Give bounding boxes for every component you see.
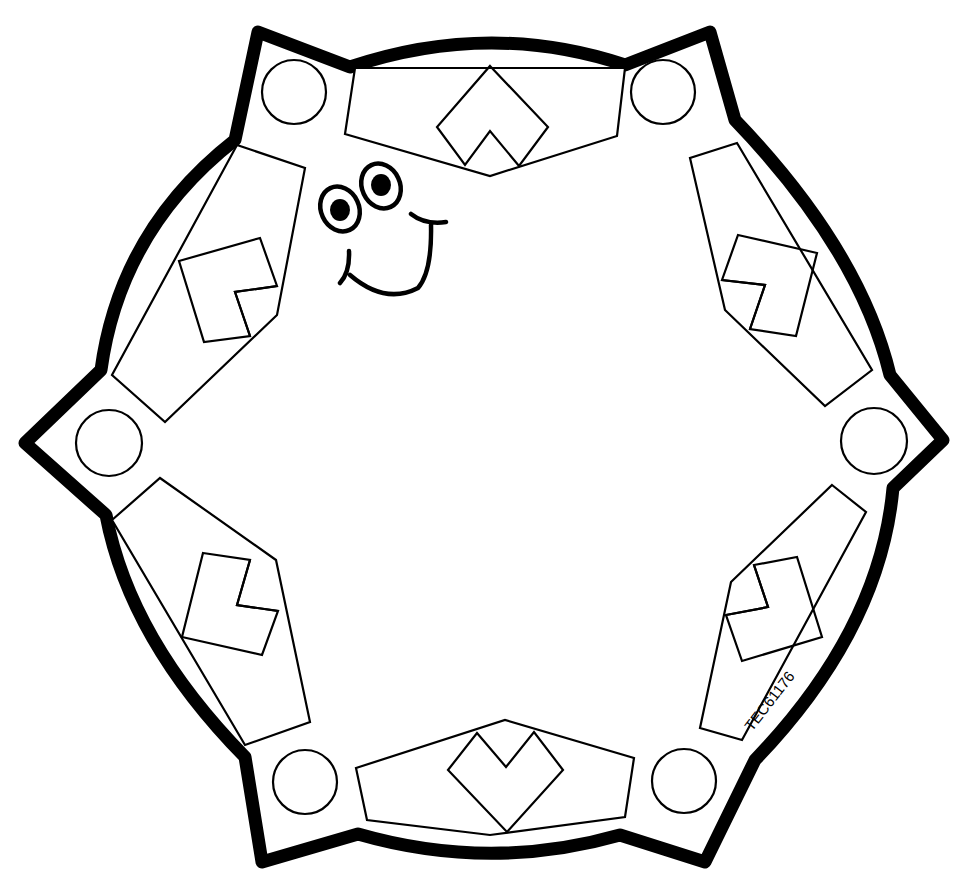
smiley-face-icon (313, 157, 446, 294)
panel-bottom (356, 720, 634, 835)
panel-lower-right (700, 485, 866, 740)
panel-top (345, 68, 625, 176)
circle-top-right (631, 60, 695, 124)
circle-bottom-right (652, 749, 716, 813)
circle-right (841, 408, 907, 474)
circle-bottom-left (273, 750, 337, 814)
craft-pattern: TEC61176 (0, 0, 967, 877)
circle-top-left (262, 60, 326, 124)
right-eye-pupil (371, 174, 391, 196)
circle-left (76, 410, 142, 476)
left-eye-pupil (330, 199, 350, 221)
